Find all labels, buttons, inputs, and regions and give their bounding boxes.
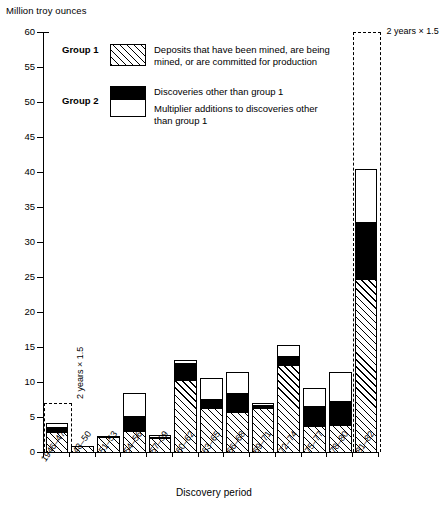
legend-row-group2: Group 2 Discoveries other than group 1 M… (62, 86, 318, 126)
y-tick-label-60: 60 (11, 26, 35, 37)
bar-segment-black (226, 393, 249, 413)
legend-text-group1: Deposits that have been mined, are being… (154, 44, 330, 67)
bar-segment-white (123, 393, 146, 417)
y-tick-label-30: 30 (11, 236, 35, 247)
bar-segment-white (329, 372, 352, 401)
legend-group1-label: Group 1 (62, 44, 110, 55)
y-tick-label-10: 10 (11, 376, 35, 387)
y-tick-label-25: 25 (11, 271, 35, 282)
x-tick-label-5: 60–62 (173, 429, 196, 455)
bar-segment-white (200, 378, 223, 400)
y-tick-60 (37, 32, 43, 33)
x-tick-label-8: 69–71 (251, 429, 274, 455)
legend-text-group2: Discoveries other than group 1 Multiplie… (154, 86, 318, 126)
y-tick-15 (37, 347, 43, 348)
x-tick-label-3: 54–56 (122, 429, 145, 455)
x-tick-12 (352, 452, 353, 457)
ann-last-box (353, 32, 382, 452)
legend-swatch-hatched-icon (110, 44, 146, 66)
y-axis-title: Million troy ounces (6, 5, 87, 16)
y-tick-45 (37, 137, 43, 138)
y-tick-30 (37, 242, 43, 243)
x-tick-label-7: 66–68 (225, 429, 248, 455)
x-tick-end (378, 452, 379, 457)
y-tick-25 (37, 277, 43, 278)
x-axis-tick-labels: 1946–4748–5051–5354–5657–5960–6263–6566–… (0, 425, 340, 480)
legend-swatch-black-icon (110, 86, 146, 99)
bar-segment-black (174, 363, 197, 381)
y-tick-55 (37, 67, 43, 68)
legend-row-group1: Group 1 Deposits that have been mined, a… (62, 44, 330, 67)
x-tick-label-1: 48–50 (70, 429, 93, 455)
x-tick-label-6: 63–65 (199, 429, 222, 455)
bar-segment-white (303, 388, 326, 408)
y-tick-40 (37, 172, 43, 173)
y-tick-label-15: 15 (11, 341, 35, 352)
x-tick-label-4: 57–59 (148, 429, 171, 455)
y-tick-10 (37, 382, 43, 383)
y-tick-label-5: 5 (11, 411, 35, 422)
y-tick-35 (37, 207, 43, 208)
legend-text-group1-line2: mined, or are committed for production (154, 56, 330, 68)
x-tick-label-2: 51–53 (96, 429, 119, 455)
legend-group2-label: Group 2 (62, 86, 110, 106)
y-axis-tick-labels: 051015202530354045505560 (9, 32, 35, 452)
y-tick-label-55: 55 (11, 61, 35, 72)
legend-swatch-split-icon (110, 86, 146, 117)
legend-text-group2-white-line2: than group 1 (154, 115, 318, 127)
y-tick-label-40: 40 (11, 166, 35, 177)
legend-swatch-white-icon (110, 99, 146, 117)
y-tick-label-45: 45 (11, 131, 35, 142)
x-axis-title: Discovery period (0, 487, 428, 498)
y-tick-label-20: 20 (11, 306, 35, 317)
legend-text-group2-black: Discoveries other than group 1 (154, 86, 318, 99)
y-tick-20 (37, 312, 43, 313)
y-tick-label-35: 35 (11, 201, 35, 212)
legend-text-group2-white-line1: Multiplier additions to discoveries othe… (154, 103, 318, 115)
y-tick-label-50: 50 (11, 96, 35, 107)
bar-segment-white (226, 372, 249, 394)
bar-segment-black (329, 401, 352, 426)
x-tick-label-9: 72–74 (277, 429, 300, 455)
ann-first-label: 2 years × 1.5 (75, 347, 85, 399)
y-tick-5 (37, 417, 43, 418)
x-tick-label-10: 75–77 (302, 429, 325, 455)
ann-last-label: 2 years × 1.5 (386, 26, 438, 36)
x-tick-label-0: 1946–47 (39, 429, 67, 463)
legend-text-group1-line1: Deposits that have been mined, are being (154, 44, 330, 56)
y-tick-50 (37, 102, 43, 103)
